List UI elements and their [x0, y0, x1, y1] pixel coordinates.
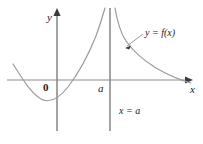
curve-label-leader-arrowhead [125, 45, 131, 49]
asymptote-equation-label: x = a [119, 106, 140, 116]
graph-canvas [0, 0, 203, 144]
origin-label: 0 [43, 82, 49, 93]
y-axis-label: y [47, 12, 52, 23]
x-axis-label: x [190, 84, 195, 95]
x-tick-label-a: a [98, 83, 104, 94]
curve-right-branch [115, 8, 191, 83]
function-graph-figure: y x 0 a x = a y = f(x) [0, 0, 203, 144]
curve-equation-label: y = f(x) [145, 28, 175, 38]
curve-label-leader-line [127, 34, 143, 46]
y-axis-arrowhead [53, 8, 60, 16]
curve-left-branch [13, 8, 105, 101]
